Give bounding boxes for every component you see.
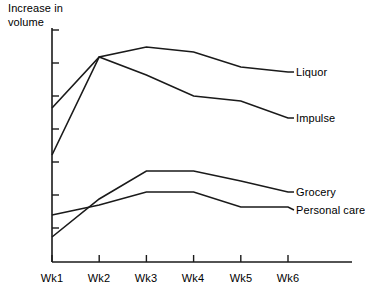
x-tick-label-wk4: Wk4 — [182, 272, 204, 284]
x-tick-label-wk2: Wk2 — [88, 272, 110, 284]
x-tick-label-wk5: Wk5 — [230, 272, 252, 284]
series-line-impulse — [52, 57, 294, 118]
series-label-impulse: Impulse — [296, 112, 335, 124]
series-line-liquor — [52, 47, 294, 155]
x-tick-label-wk6: Wk6 — [277, 272, 299, 284]
series-label-personal-care: Personal care — [296, 204, 365, 216]
series-label-liquor: Liquor — [296, 66, 327, 78]
series-line-grocery — [52, 171, 294, 237]
plot-area — [0, 0, 365, 293]
x-tick-label-wk3: Wk3 — [135, 272, 157, 284]
y-axis-ticks — [52, 30, 59, 228]
series-lines — [52, 47, 294, 237]
series-line-personal-care — [52, 192, 294, 215]
x-tick-label-wk1: Wk1 — [41, 272, 63, 284]
series-label-grocery: Grocery — [296, 186, 336, 198]
line-chart: Increase in volume Liquor Impulse Grocer… — [0, 0, 365, 293]
x-axis-ticks — [52, 255, 288, 262]
